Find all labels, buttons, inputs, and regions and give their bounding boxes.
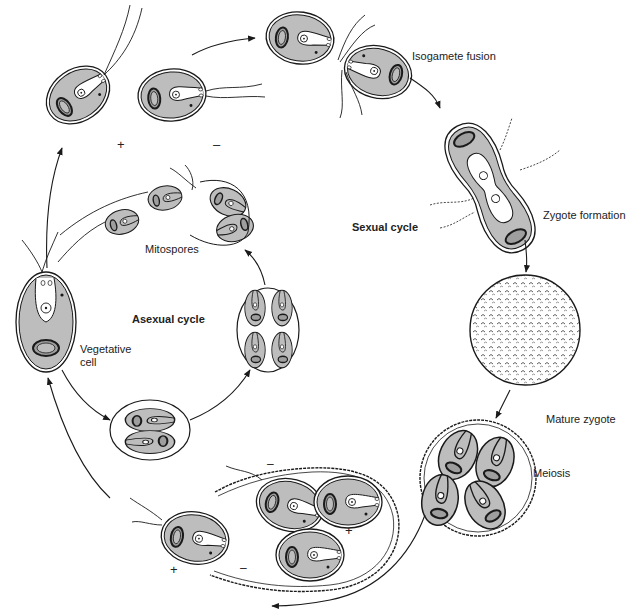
mating-sign-plus-gamete: +: [117, 138, 125, 151]
label-sexual-cycle: Sexual cycle: [352, 221, 418, 234]
two-cell-division: [110, 400, 190, 460]
meiospore-1: [157, 506, 233, 569]
mating-sign-minus-gamete: –: [213, 138, 220, 151]
meiospore-3: [314, 476, 382, 528]
mature-zygote: [470, 275, 580, 385]
label-isogamete-fusion: Isogamete fusion: [412, 50, 496, 63]
vegetative-cell: [16, 232, 76, 372]
mating-sign-plus-right: +: [345, 524, 353, 537]
label-zygote-formation: Zygote formation: [543, 209, 626, 222]
mating-sign-minus-bottom: –: [240, 562, 247, 575]
label-mature-zygote: Mature zygote: [546, 413, 616, 426]
label-vegetative-cell-line2: cell: [80, 356, 97, 369]
fusing-gamete-left: [263, 8, 338, 69]
label-meiosis: Meiosis: [533, 467, 570, 480]
diagram-artwork: [0, 0, 633, 612]
mating-sign-minus-top: –: [267, 458, 274, 471]
four-cell-division: [237, 288, 299, 372]
label-asexual-cycle: Asexual cycle: [132, 313, 205, 326]
life-cycle-diagram: Isogamete fusion Zygote formation Sexual…: [0, 0, 633, 612]
mating-sign-plus-bottom: +: [170, 563, 178, 576]
gamete-minus: [136, 66, 208, 124]
zygote-forming: [435, 115, 544, 262]
meiospore-4: [276, 529, 344, 581]
meiosis-zygote: [418, 420, 536, 536]
label-mitospores: Mitospores: [145, 243, 199, 256]
label-vegetative-cell-line1: Vegetative: [80, 343, 131, 356]
